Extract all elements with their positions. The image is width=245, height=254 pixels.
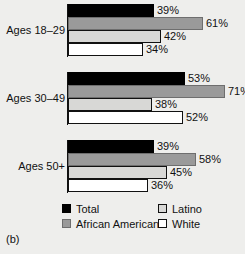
legend-label-african-american: African American: [76, 218, 159, 230]
bar-latino[interactable]: [68, 166, 167, 179]
bar-total[interactable]: [68, 4, 154, 17]
bar-total[interactable]: [68, 72, 185, 85]
category-label-ages-30-49: Ages 30–49: [0, 93, 65, 104]
bar-value-african-american: 71%: [225, 85, 245, 98]
bar-latino[interactable]: [68, 30, 161, 43]
category-label-ages-18-29: Ages 18–29: [0, 25, 65, 36]
bar-total[interactable]: [68, 140, 154, 153]
legend-item-latino[interactable]: Latino: [158, 203, 202, 215]
legend-item-total[interactable]: Total: [62, 203, 158, 215]
bar-value-total: 39%: [154, 140, 179, 153]
bar-african-american[interactable]: [68, 85, 225, 98]
bar-african-american[interactable]: [68, 17, 203, 30]
bar-latino[interactable]: [68, 98, 152, 111]
bar-white[interactable]: [68, 111, 183, 124]
bar-value-white: 36%: [148, 179, 173, 192]
bar-value-african-american: 61%: [203, 17, 228, 30]
bar-value-total: 39%: [154, 4, 179, 17]
bar-chart-figure: Ages 18–29 39% 61% 42% 34%: [0, 0, 245, 254]
plot-area: Ages 18–29 39% 61% 42% 34%: [0, 0, 245, 196]
bar-white[interactable]: [68, 43, 143, 56]
bar-value-latino: 42%: [161, 30, 186, 43]
bar-value-white: 34%: [143, 43, 168, 56]
bar-value-total: 53%: [185, 72, 210, 85]
legend-label-total: Total: [76, 203, 99, 215]
bar-value-white: 52%: [183, 111, 208, 124]
legend-swatch-total-icon: [62, 204, 71, 213]
legend-swatch-african-american-icon: [62, 219, 71, 228]
bar-value-latino: 38%: [152, 98, 177, 111]
panel-caption: (b): [6, 233, 19, 245]
legend-row: Total Latino: [62, 201, 237, 216]
bar-african-american[interactable]: [68, 153, 196, 166]
legend-label-latino: Latino: [172, 203, 202, 215]
category-label-ages-50-plus: Ages 50+: [0, 161, 65, 172]
legend-swatch-latino-icon: [158, 204, 167, 213]
bar-white[interactable]: [68, 179, 148, 192]
bar-value-african-american: 58%: [196, 153, 221, 166]
bar-value-latino: 45%: [167, 166, 192, 179]
chart-legend: Total Latino African American White: [62, 201, 237, 231]
legend-item-white[interactable]: White: [158, 218, 200, 230]
legend-row: African American White: [62, 216, 237, 231]
legend-swatch-white-icon: [158, 219, 167, 228]
legend-item-african-american[interactable]: African American: [62, 218, 158, 230]
legend-label-white: White: [172, 218, 200, 230]
